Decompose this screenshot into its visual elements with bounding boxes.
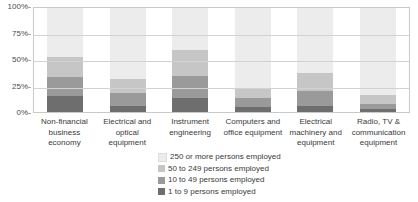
- legend-item[interactable]: 50 to 249 persons employed: [158, 164, 281, 174]
- legend-label: 50 to 249 persons employed: [168, 165, 269, 173]
- x-axis-label-line: engineering: [160, 128, 220, 139]
- bar-segment[interactable]: [360, 8, 396, 95]
- x-axis-label-line: optical: [97, 128, 157, 139]
- bar-segment[interactable]: [110, 106, 146, 112]
- gridline: [34, 61, 409, 62]
- x-axis-label-line: Computers and: [223, 117, 283, 128]
- bar-segment[interactable]: [110, 93, 146, 105]
- bar-segment[interactable]: [235, 88, 271, 98]
- bar-column[interactable]: [172, 8, 208, 112]
- x-axis-label-line: economy: [34, 138, 94, 149]
- legend-swatch: [158, 177, 165, 184]
- y-tick-label: 100%: [8, 3, 28, 11]
- plot-area: [33, 7, 410, 113]
- x-axis-label: Non-financialbusinesseconomy: [34, 117, 94, 149]
- y-tick-mark: [28, 60, 31, 61]
- x-axis-label-line: Non-financial: [34, 117, 94, 128]
- bar-segment[interactable]: [297, 8, 333, 72]
- bar-segment[interactable]: [235, 8, 271, 88]
- x-axis-labels: Non-financialbusinesseconomyElectrical a…: [33, 117, 410, 149]
- bar-segment[interactable]: [47, 8, 83, 57]
- y-tick-mark: [28, 7, 31, 8]
- bar-segment[interactable]: [110, 8, 146, 79]
- legend-item[interactable]: 250 or more persons employed: [158, 152, 281, 162]
- x-axis-label-line: office equipment: [223, 128, 283, 139]
- legend-item[interactable]: 1 to 9 persons employed: [158, 187, 281, 197]
- x-axis-label-line: communication: [349, 128, 409, 139]
- y-tick-mark: [28, 87, 31, 88]
- x-axis-label-line: business: [34, 128, 94, 139]
- stacked-bar-chart: 0%25%50%75%100% Non-financialbusinesseco…: [0, 0, 418, 202]
- legend-swatch: [158, 188, 165, 195]
- y-tick-label: 25%: [12, 83, 28, 91]
- bar-segment[interactable]: [360, 109, 396, 112]
- y-axis: 0%25%50%75%100%: [0, 0, 31, 120]
- legend-label: 10 to 49 persons employed: [168, 176, 265, 184]
- bar-column[interactable]: [297, 8, 333, 112]
- legend-label: 1 to 9 persons employed: [168, 188, 256, 196]
- x-axis-label-line: equipment: [286, 138, 346, 149]
- bar-segment[interactable]: [172, 50, 208, 76]
- x-axis-label-line: Instrument: [160, 117, 220, 128]
- bar-segment[interactable]: [110, 79, 146, 94]
- y-tick-mark: [28, 34, 31, 35]
- bar-column[interactable]: [110, 8, 146, 112]
- x-axis-label-line: Radio, TV &: [349, 117, 409, 128]
- bar-segment[interactable]: [360, 95, 396, 103]
- bar-segment[interactable]: [297, 91, 333, 106]
- chart-legend: 250 or more persons employed50 to 249 pe…: [158, 152, 281, 197]
- gridline: [34, 35, 409, 36]
- bar-segment[interactable]: [235, 107, 271, 112]
- bar-segment[interactable]: [47, 57, 83, 77]
- bar-segment[interactable]: [172, 8, 208, 50]
- bar-column[interactable]: [47, 8, 83, 112]
- y-tick-label: 50%: [12, 56, 28, 64]
- gridline: [34, 88, 409, 89]
- x-axis-label: Electrical andopticalequipment: [97, 117, 157, 149]
- bars-layer: [34, 8, 409, 112]
- y-tick-label: 0%: [16, 109, 28, 117]
- x-axis-label-line: Electrical: [286, 117, 346, 128]
- bar-segment[interactable]: [172, 98, 208, 112]
- bar-segment[interactable]: [235, 98, 271, 106]
- y-tick-mark: [28, 113, 31, 114]
- x-axis-label-line: equipment: [97, 138, 157, 149]
- x-axis-label-line: Electrical and: [97, 117, 157, 128]
- bar-segment[interactable]: [47, 96, 83, 112]
- legend-item[interactable]: 10 to 49 persons employed: [158, 175, 281, 185]
- x-axis-label: Radio, TV &communicationequipment: [349, 117, 409, 149]
- legend-label: 250 or more persons employed: [170, 153, 281, 161]
- legend-swatch: [158, 153, 167, 162]
- x-axis-label-line: equipment: [349, 138, 409, 149]
- bar-segment[interactable]: [297, 106, 333, 112]
- y-tick-label: 75%: [12, 30, 28, 38]
- x-axis-label: Computers andoffice equipment: [223, 117, 283, 149]
- x-axis-label: Electricalmachinery andequipment: [286, 117, 346, 149]
- bar-column[interactable]: [235, 8, 271, 112]
- legend-swatch: [158, 165, 165, 172]
- x-axis-label-line: machinery and: [286, 128, 346, 139]
- bar-column[interactable]: [360, 8, 396, 112]
- x-axis-label: Instrumentengineering: [160, 117, 220, 149]
